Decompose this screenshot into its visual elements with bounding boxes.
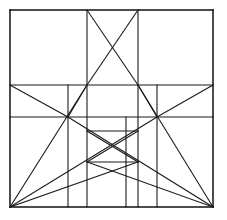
diagram-background (0, 0, 227, 220)
diagram-canvas: Geometric line construction diagram A sq… (0, 0, 227, 220)
geometric-line-diagram (0, 0, 227, 220)
